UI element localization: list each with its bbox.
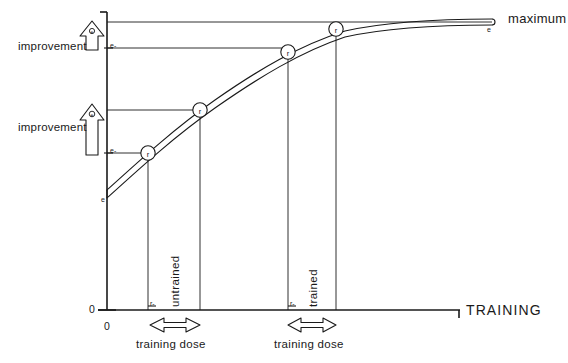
dose-arrow-untrained-icon (150, 318, 200, 332)
improvement-label-upper: improvement (18, 40, 87, 52)
tick-label-untrained-r: r- (150, 300, 155, 307)
tick-label-curve-end-e: e (487, 26, 491, 33)
maximum-label: maximum (508, 11, 566, 26)
tick-label-curve-start-e: e (101, 196, 105, 203)
x-axis-label: TRAINING (466, 302, 542, 318)
curve-cap-end (492, 19, 495, 25)
origin-label-x: 0 (104, 320, 110, 332)
curve-outline-upper (107, 19, 492, 190)
dose-arrow-trained-icon (288, 318, 336, 332)
performance-curve (107, 19, 495, 198)
tick-label-upper-e: e- (110, 42, 116, 49)
improvement-label-lower: improvement (18, 121, 87, 133)
untrained-region-label: untrained (169, 255, 181, 307)
improvement-arrow-lower-e: e (91, 112, 94, 118)
training-dose-label-left: training dose (136, 338, 206, 350)
trained-region-label: trained (307, 269, 319, 307)
y-tick-marks (104, 48, 113, 153)
reference-lines (107, 22, 492, 153)
axis-group (98, 12, 460, 318)
tick-label-lower-e: e- (110, 147, 116, 154)
dose-arrows (150, 318, 336, 332)
training-dose-label-right: training dose (274, 338, 344, 350)
improvement-arrow-upper-e: e (91, 29, 94, 35)
tick-label-trained-r: r- (290, 300, 295, 307)
origin-label-y: 0 (89, 303, 95, 315)
curve-outline-lower (107, 25, 492, 198)
